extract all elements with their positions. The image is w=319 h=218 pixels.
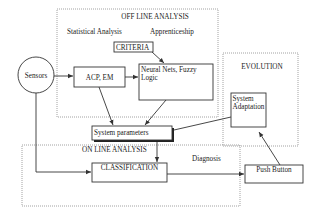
diagram-canvas: OFF LINE ANALYSIS Statistical Analysis A… [0, 0, 319, 218]
diagnosis-label: Diagnosis [192, 155, 221, 163]
offline-analysis-title: OFF LINE ANALYSIS [121, 13, 189, 21]
system-adaptation-label-line2: Adaptation [233, 103, 265, 111]
acp-em-label: ACP, EM [86, 74, 114, 82]
system-adaptation-label-line1: System [233, 95, 255, 103]
system-parameters-label: System parameters [94, 129, 149, 137]
neural-nets-label-line2: Logic [141, 74, 158, 82]
sensors-label: Sensors [25, 72, 48, 80]
statistical-analysis-label: Statistical Analysis [67, 28, 122, 36]
classification-label: CLASSIFICATION [101, 164, 159, 172]
edge-pushbutton-adaptation [259, 132, 280, 165]
push-button-label: Push Button [256, 166, 292, 174]
edge-adaptation-sysparams [174, 117, 231, 130]
edge-neural-sysparams [145, 100, 166, 125]
apprenticeship-label: Apprenticeship [150, 28, 194, 36]
edge-sensors-classification [36, 93, 91, 172]
edge-criteria-neural [152, 52, 164, 63]
neural-nets-label-line1: Neural Nets, Fuzzy [141, 66, 197, 74]
offline-analysis-region [57, 9, 218, 117]
evolution-title: EVOLUTION [241, 63, 283, 71]
criteria-label: CRITERIA [116, 44, 150, 52]
online-analysis-title: ON LINE ANALYSIS [82, 146, 147, 154]
edge-acp-sysparams [99, 87, 113, 125]
